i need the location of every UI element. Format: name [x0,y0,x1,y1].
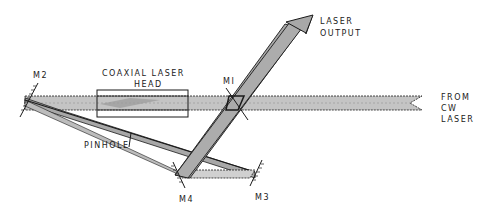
label-m3: M3 [255,193,270,203]
label-m2: M2 [33,71,48,81]
label-output-line2: OUTPUT [320,29,362,39]
label-input-line2: CW [441,104,458,114]
label-m4: M4 [179,195,194,205]
optical-diagram [0,0,488,212]
label-input-line3: LASER [441,115,474,125]
label-input-line1: FROM [441,93,470,103]
label-m1: MI [223,77,235,87]
label-pinhole: PINHOLE [84,141,130,151]
label-head-line1: COAXIAL LASER [102,69,185,79]
label-output-line1: LASER [320,17,353,27]
label-head-line2: HEAD [134,80,163,90]
